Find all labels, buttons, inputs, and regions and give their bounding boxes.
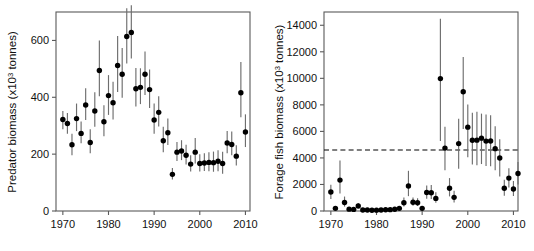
data-point [110, 100, 115, 105]
data-point [115, 63, 120, 68]
data-point [124, 34, 129, 39]
x-tick-label: 1990 [410, 218, 434, 230]
data-point [211, 160, 216, 165]
data-point [220, 161, 225, 166]
y-tick-label: 0 [43, 205, 49, 217]
data-point [438, 76, 443, 81]
data-point [442, 145, 447, 150]
data-point [215, 159, 220, 164]
y-axis-title: Forage fish biomass (x103 tonnes) [273, 24, 286, 199]
data-point [188, 161, 193, 166]
data-point [397, 206, 402, 211]
data-point [415, 200, 420, 205]
y-tick-label: 600 [31, 34, 49, 46]
y-tick-label: 400 [31, 91, 49, 103]
y-tick-label: 2000 [293, 178, 317, 190]
panel-forage-fish-biomass: 0200040006000800010000120001400019701980… [267, 0, 534, 251]
data-point [406, 183, 411, 188]
data-point [138, 85, 143, 90]
data-point [502, 185, 507, 190]
data-point [506, 175, 511, 180]
data-point [511, 186, 516, 191]
data-point [243, 129, 248, 134]
data-point [119, 72, 124, 77]
data-point [151, 117, 156, 122]
data-point [165, 130, 170, 135]
data-point [451, 195, 456, 200]
x-tick-label: 1970 [319, 218, 343, 230]
y-tick-label: 0 [311, 205, 317, 217]
data-point [419, 206, 424, 211]
data-point [78, 131, 83, 136]
x-tick-label: 2000 [456, 218, 480, 230]
data-point [447, 185, 452, 190]
data-point [193, 149, 198, 154]
x-tick-label: 2010 [501, 218, 525, 230]
x-tick-label: 2010 [233, 218, 257, 230]
y-tick-label: 14000 [286, 19, 317, 31]
plot-frame [324, 12, 518, 211]
two-panel-biomass-figure: 020040060019701980199020002010Predator b… [0, 0, 534, 251]
data-point [356, 203, 361, 208]
data-point [456, 141, 461, 146]
data-point [465, 124, 470, 129]
x-tick-label: 1970 [51, 218, 75, 230]
data-point [234, 153, 239, 158]
data-point [147, 87, 152, 92]
data-point [101, 119, 106, 124]
data-point [328, 189, 333, 194]
data-point [129, 30, 134, 35]
data-point [183, 153, 188, 158]
x-tick-label: 1980 [364, 218, 388, 230]
y-tick-label: 6000 [293, 125, 317, 137]
data-point [92, 108, 97, 113]
y-tick-label: 10000 [286, 72, 317, 84]
data-point [392, 207, 397, 212]
y-tick-label: 8000 [293, 99, 317, 111]
data-point [97, 68, 102, 73]
data-point [479, 135, 484, 140]
data-point [515, 171, 520, 176]
data-point [238, 90, 243, 95]
data-point [401, 200, 406, 205]
data-point [83, 102, 88, 107]
data-point [433, 196, 438, 201]
y-tick-label: 12000 [286, 46, 317, 58]
data-point [197, 161, 202, 166]
x-tick-label: 2000 [188, 218, 212, 230]
data-point [65, 121, 70, 126]
data-point [351, 207, 356, 212]
x-tick-label: 1980 [96, 218, 120, 230]
data-point [429, 190, 434, 195]
data-point [202, 160, 207, 165]
data-point [342, 200, 347, 205]
x-tick-label: 1990 [142, 218, 166, 230]
y-tick-label: 4000 [293, 152, 317, 164]
data-point [410, 200, 415, 205]
data-point [488, 138, 493, 143]
data-point [174, 149, 179, 154]
data-point [492, 146, 497, 151]
data-point [170, 172, 175, 177]
data-point [337, 177, 342, 182]
chart-forage: 0200040006000800010000120001400019701980… [267, 0, 534, 251]
data-point [179, 148, 184, 153]
data-point [229, 142, 234, 147]
data-point [161, 138, 166, 143]
data-point [142, 72, 147, 77]
y-tick-label: 200 [31, 148, 49, 160]
data-point [74, 116, 79, 121]
y-axis-title: Predator biomass (x103 tonnes) [6, 31, 19, 193]
data-point [69, 142, 74, 147]
data-point [333, 206, 338, 211]
panel-predator-biomass: 020040060019701980199020002010Predator b… [0, 0, 267, 251]
data-point [156, 110, 161, 115]
data-point [461, 89, 466, 94]
data-point [133, 86, 138, 91]
data-point [497, 155, 502, 160]
chart-predator: 020040060019701980199020002010Predator b… [0, 0, 267, 251]
data-point [106, 93, 111, 98]
data-point [224, 140, 229, 145]
data-point [60, 117, 65, 122]
data-point [387, 207, 392, 212]
